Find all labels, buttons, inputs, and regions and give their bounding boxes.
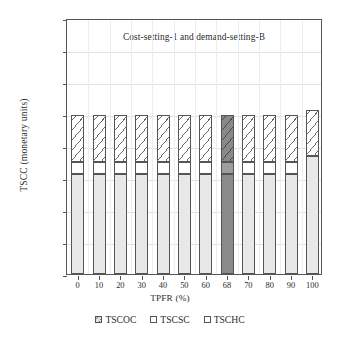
x-tick-mark [291,276,292,280]
bar-segment-tschc[interactable] [114,115,127,162]
legend-label: TSCHC [214,314,245,325]
bar-segment-tscsc[interactable] [157,162,170,174]
bar-segment-tscoc[interactable] [93,174,106,274]
bar-segment-tscoc[interactable] [285,174,298,274]
bar-segment-tscsc[interactable] [114,162,127,174]
bar-segment-tscoc[interactable] [263,174,276,274]
bar-segment-tschc[interactable] [285,115,298,162]
bar-segment-tscoc[interactable] [157,174,170,274]
x-tick-mark [227,276,228,280]
y-tick-mark [63,276,67,277]
bar-segment-tschc[interactable] [199,115,212,162]
vertical-gridline [174,20,175,274]
x-tick-mark [312,276,313,280]
x-tick-label: 40 [159,281,167,290]
vertical-gridline [280,20,281,274]
bar-column[interactable] [242,20,255,274]
bar-segment-tschc[interactable] [242,115,255,162]
stacked-bar[interactable] [242,115,255,274]
legend-label: TSCSC [160,314,189,325]
x-axis-title: TPFR (%) [0,293,340,303]
x-tick-label: 70 [244,281,252,290]
bar-segment-tscsc[interactable] [135,162,148,174]
bar-segment-tscsc[interactable] [178,162,191,174]
bar-column[interactable] [93,20,106,274]
bar-column[interactable] [71,20,84,274]
stacked-bar[interactable] [135,115,148,274]
x-tick-label: 80 [265,281,273,290]
bar-column[interactable] [157,20,170,274]
x-tick-label: 20 [116,281,124,290]
bar-segment-tschc[interactable] [157,115,170,162]
bar-segment-tscoc[interactable] [221,174,234,274]
legend-item-tscoc[interactable]: TSCOC [95,314,136,325]
vertical-gridline [216,20,217,274]
bar-segment-tscsc[interactable] [199,162,212,174]
stacked-bar[interactable] [306,110,319,274]
x-tick-mark [120,276,121,280]
bar-column[interactable] [221,20,234,274]
stacked-bar[interactable] [114,115,127,274]
vertical-gridline [259,20,260,274]
x-tick-mark [270,276,271,280]
bar-segment-tscoc[interactable] [114,174,127,274]
vertical-gridline [302,20,303,274]
bar-segment-tscoc[interactable] [199,174,212,274]
bar-column[interactable] [285,20,298,274]
bar-segment-tscsc[interactable] [71,162,84,174]
stacked-bar[interactable] [71,115,84,274]
vertical-gridline [131,20,132,274]
x-tick-mark [206,276,207,280]
legend-swatch-icon [150,316,157,323]
bar-segment-tschc[interactable] [306,110,319,157]
bar-column[interactable] [263,20,276,274]
bar-segment-tscoc[interactable] [306,156,319,274]
x-tick-label: 0 [76,281,80,290]
legend-swatch-icon [204,316,211,323]
x-tick-mark [248,276,249,280]
bar-segment-tscsc[interactable] [221,162,234,174]
vertical-gridline [238,20,239,274]
bar-segment-tscsc[interactable] [285,162,298,174]
x-tick-label: 30 [137,281,145,290]
bar-segment-tschc[interactable] [178,115,191,162]
bar-segment-tschc[interactable] [71,115,84,162]
bar-segment-tschc[interactable] [135,115,148,162]
bar-segment-tschc[interactable] [221,115,234,162]
x-tick-label: 90 [287,281,295,290]
vertical-gridline [195,20,196,274]
vertical-gridline [88,20,89,274]
bar-segment-tscoc[interactable] [135,174,148,274]
bar-column[interactable] [199,20,212,274]
bar-segment-tscsc[interactable] [93,162,106,174]
bar-segment-tscoc[interactable] [178,174,191,274]
bar-segment-tscoc[interactable] [71,174,84,274]
y-axis-title: TSCC (monetary units) [19,35,29,255]
stacked-bar[interactable] [199,115,212,274]
stacked-bar[interactable] [263,115,276,274]
stacked-bar[interactable] [93,115,106,274]
bar-column[interactable] [306,20,319,274]
bar-column[interactable] [114,20,127,274]
bar-segment-tschc[interactable] [93,115,106,162]
vertical-gridline [152,20,153,274]
stacked-bar[interactable] [285,115,298,274]
x-tick-label: 10 [95,281,103,290]
x-tick-mark [99,276,100,280]
x-tick-label: 50 [180,281,188,290]
bar-series [67,20,321,274]
bar-segment-tscsc[interactable] [242,162,255,174]
chart-figure: TSCC (monetary units) Cost-setting-1 and… [0,0,340,346]
legend-item-tschc[interactable]: TSCHC [204,314,245,325]
stacked-bar[interactable] [178,115,191,274]
stacked-bar[interactable] [221,115,234,274]
bar-column[interactable] [178,20,191,274]
bar-column[interactable] [135,20,148,274]
bar-segment-tscsc[interactable] [263,162,276,174]
legend-item-tscsc[interactable]: TSCSC [150,314,189,325]
x-tick-mark [163,276,164,280]
bar-segment-tscoc[interactable] [242,174,255,274]
bar-segment-tschc[interactable] [263,115,276,162]
x-tick-label: 100 [306,281,319,290]
stacked-bar[interactable] [157,115,170,274]
